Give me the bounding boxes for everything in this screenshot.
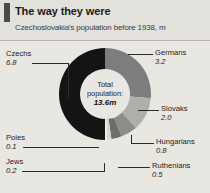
label-ruthenians: Ruthenians 0.5	[152, 161, 190, 179]
label-hungarians-value: 0.8	[156, 146, 195, 155]
leader-ruthenians-h	[118, 167, 150, 168]
chart-plot-area: Total population: 13.6m Czechs 6.8 Germa…	[0, 41, 210, 193]
leader-jews-h	[22, 171, 104, 172]
chart-figure: The way they were Czechoslovakia's popul…	[0, 0, 210, 193]
donut-hole	[81, 70, 130, 119]
leader-slovaks-h	[138, 110, 159, 111]
leader-germans-h	[128, 54, 153, 55]
label-ruthenians-value: 0.5	[152, 170, 190, 179]
label-slovaks-value: 2.0	[161, 113, 188, 122]
donut-chart	[57, 46, 153, 142]
label-ruthenians-name: Ruthenians	[152, 161, 190, 170]
leader-poles-h	[23, 147, 99, 148]
label-germans: Germans 3.2	[155, 48, 186, 66]
label-czechs-name: Czechs	[6, 49, 31, 58]
label-jews: Jews 0.2	[6, 157, 23, 175]
label-slovaks-name: Slovaks	[161, 104, 188, 113]
label-slovaks: Slovaks 2.0	[161, 104, 188, 122]
label-hungarians-name: Hungarians	[156, 137, 195, 146]
leader-hungarians-v	[131, 135, 132, 144]
label-czechs-value: 6.8	[6, 58, 31, 67]
chart-title: The way they were	[15, 5, 111, 17]
donut-svg	[57, 46, 153, 142]
label-poles-name: Poles	[6, 133, 25, 142]
label-poles: Poles 0.1	[6, 133, 25, 151]
label-germans-value: 3.2	[155, 57, 186, 66]
leader-jews-v	[104, 163, 105, 172]
brand-tab-marker	[4, 3, 10, 22]
leader-czechs-h	[32, 63, 69, 64]
label-jews-name: Jews	[6, 157, 23, 166]
leader-czechs-v	[68, 63, 69, 99]
chart-subtitle: Czechoslovakia's population before 1938,…	[15, 23, 165, 32]
label-hungarians: Hungarians 0.8	[156, 137, 195, 155]
label-jews-value: 0.2	[6, 166, 23, 175]
label-germans-name: Germans	[155, 48, 186, 57]
label-czechs: Czechs 6.8	[6, 49, 31, 67]
leader-hungarians-h	[131, 143, 154, 144]
